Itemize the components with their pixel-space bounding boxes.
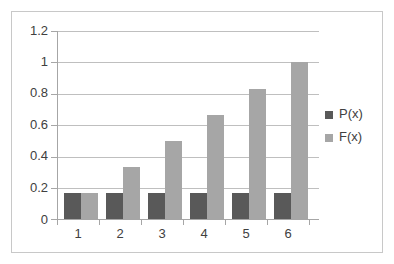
legend-label-f: F(x) bbox=[339, 130, 362, 145]
bar-p-3 bbox=[148, 193, 165, 219]
bar-f-1 bbox=[81, 193, 98, 219]
chart-legend: P(x) F(x) bbox=[325, 107, 383, 153]
bar-p-2 bbox=[106, 193, 123, 219]
legend-swatch-f-icon bbox=[325, 134, 333, 142]
bar-group-6 bbox=[271, 31, 313, 219]
x-axis-label-1: 1 bbox=[57, 227, 99, 240]
bar-f-2 bbox=[123, 167, 140, 219]
x-tick-5 bbox=[267, 219, 268, 225]
bar-group-2 bbox=[103, 31, 145, 219]
bar-f-6 bbox=[291, 62, 308, 219]
y-axis-labels: 1.2 1 0.8 0.6 0.4 0.2 0 bbox=[12, 12, 48, 254]
x-axis-label-4: 4 bbox=[183, 227, 225, 240]
x-axis-label-6: 6 bbox=[267, 227, 309, 240]
chart-frame: 1.2 1 0.8 0.6 0.4 0.2 0 bbox=[11, 11, 383, 253]
legend-item-f: F(x) bbox=[325, 130, 383, 153]
y-axis-label-0_2: 0.2 bbox=[12, 181, 48, 194]
x-axis-line bbox=[57, 219, 319, 220]
x-tick-3 bbox=[183, 219, 184, 225]
x-tick-4 bbox=[225, 219, 226, 225]
bar-p-6 bbox=[274, 193, 291, 219]
x-tick-1 bbox=[99, 219, 100, 225]
x-tick-6 bbox=[309, 219, 310, 225]
x-tick-2 bbox=[141, 219, 142, 225]
bar-p-4 bbox=[190, 193, 207, 219]
bar-group-4 bbox=[187, 31, 229, 219]
legend-swatch-p-icon bbox=[325, 111, 333, 119]
y-axis-label-0: 0 bbox=[12, 213, 48, 226]
bar-f-5 bbox=[249, 89, 266, 220]
y-axis-label-0_4: 0.4 bbox=[12, 149, 48, 162]
x-axis-label-3: 3 bbox=[141, 227, 183, 240]
bar-group-1 bbox=[61, 31, 103, 219]
x-tick-0 bbox=[57, 219, 58, 225]
x-axis-label-2: 2 bbox=[99, 227, 141, 240]
x-axis-label-5: 5 bbox=[225, 227, 267, 240]
plot-area bbox=[57, 31, 311, 219]
bar-f-4 bbox=[207, 115, 224, 219]
y-axis-label-0_6: 0.6 bbox=[12, 118, 48, 131]
bar-group-5 bbox=[229, 31, 271, 219]
bar-group-3 bbox=[145, 31, 187, 219]
legend-item-p: P(x) bbox=[325, 107, 383, 130]
y-axis-label-0_8: 0.8 bbox=[12, 86, 48, 99]
bar-p-1 bbox=[64, 193, 81, 219]
y-axis-label-1: 1 bbox=[12, 55, 48, 68]
legend-label-p: P(x) bbox=[339, 107, 363, 122]
y-axis-label-1_2: 1.2 bbox=[12, 24, 48, 37]
bar-p-5 bbox=[232, 193, 249, 219]
bar-f-3 bbox=[165, 141, 182, 219]
